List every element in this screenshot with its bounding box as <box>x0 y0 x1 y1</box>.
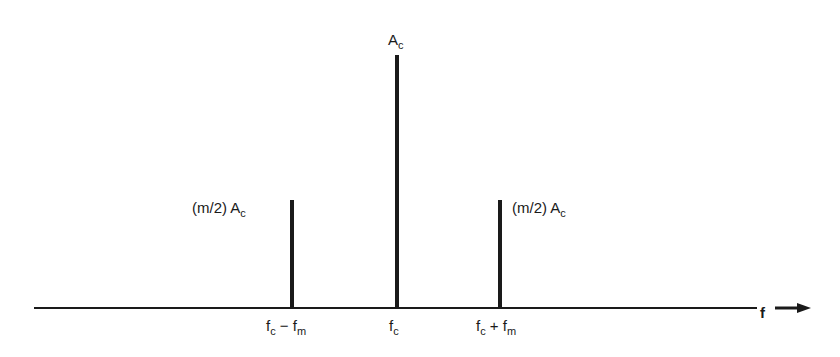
carrier-spike <box>395 55 399 308</box>
upper-sideband-spike <box>498 200 502 308</box>
carrier-freq-label: fc <box>389 318 399 337</box>
frequency-axis-label: f <box>760 305 765 320</box>
upper-sideband-freq-label: fc + fm <box>476 318 516 337</box>
lower-sideband-freq-label: fc − fm <box>266 318 306 337</box>
lower-sideband-amplitude-label: (m/2) Ac <box>192 200 246 219</box>
lower-sideband-spike <box>290 200 294 308</box>
upper-sideband-amplitude-label: (m/2) Ac <box>512 200 566 219</box>
carrier-amplitude-label: Ac <box>388 32 404 51</box>
arrow-right-icon <box>775 303 811 313</box>
